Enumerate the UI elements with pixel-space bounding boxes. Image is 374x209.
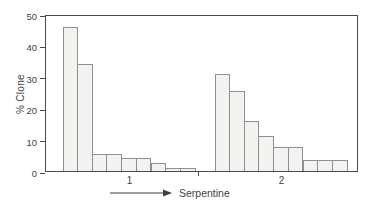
bar-group1-2: [77, 64, 93, 171]
bar-group1-3: [92, 154, 108, 171]
bar-group1-5: [121, 158, 137, 171]
y-tick-label: 20: [26, 105, 37, 116]
bar-group1-4: [106, 154, 122, 171]
y-tick-label: 0: [32, 168, 37, 179]
y-tick-label: 40: [26, 42, 37, 53]
y-tick-label: 50: [26, 11, 37, 22]
x-axis-caption: Serpentine: [110, 185, 230, 201]
bar-group2-6: [288, 147, 304, 171]
x-axis-title: Serpentine: [179, 187, 230, 199]
y-axis-tick: [40, 78, 45, 79]
bar-group1-1: [63, 27, 78, 171]
arrow-right-icon: [110, 189, 172, 197]
bar-group2-9: [332, 160, 348, 171]
y-axis-tick: [40, 141, 45, 142]
bar-group2-8: [317, 160, 333, 171]
y-axis-tick: [40, 173, 45, 174]
bar-group2-5: [273, 147, 289, 171]
bar-group2-7: [303, 160, 319, 171]
y-axis-tick: [40, 47, 45, 48]
histogram-figure: % Clone 0102030405012 Serpentine: [0, 0, 374, 209]
bar-group2-2: [229, 91, 245, 171]
y-axis-title: % Clone: [15, 74, 26, 114]
x-axis-mid-tick: [198, 171, 199, 176]
bar-group2-3: [244, 121, 260, 171]
y-tick-label: 10: [26, 136, 37, 147]
y-axis-tick: [40, 16, 45, 17]
x-group-label-2: 2: [279, 175, 285, 186]
bar-group1-6: [136, 158, 152, 171]
bar-group2-1: [215, 74, 230, 171]
y-axis-tick: [40, 110, 45, 111]
bar-group1-8: [165, 168, 181, 171]
y-tick-label: 30: [26, 73, 37, 84]
bar-group1-7: [151, 163, 167, 171]
bar-group1-9: [180, 168, 196, 171]
plot-area: % Clone 0102030405012: [45, 15, 358, 172]
bar-group2-4: [258, 136, 274, 171]
